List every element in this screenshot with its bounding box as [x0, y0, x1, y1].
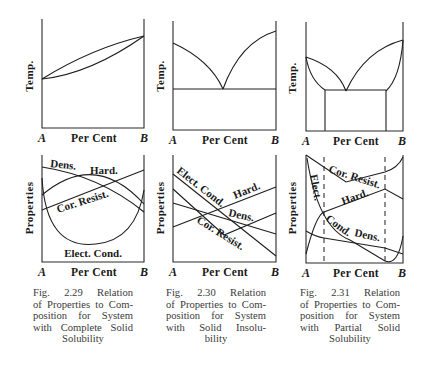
x-start-label: A — [37, 265, 46, 279]
caption-line: with Complete Solid — [33, 322, 133, 334]
fig-2-30-bottom-panel: Elect. Cond. Hard. Dens. Cor. Resist. Pr… — [154, 155, 279, 279]
figure-caption-2-31: Fig. 2.31 Relation of Properties to Com-… — [300, 287, 400, 345]
liquidus-curve-a — [306, 57, 346, 91]
caption-line: Solubility — [300, 333, 400, 345]
x-axis-label: Per Cent — [71, 266, 117, 278]
caption-line: bility — [166, 333, 266, 345]
curve-label-hardness: Hard. — [231, 179, 262, 201]
x-end-label: B — [139, 265, 148, 279]
solidus-curve-b — [386, 40, 403, 91]
figure-caption-2-30: Fig. 2.30 Relation of Properties to Com-… — [166, 287, 266, 345]
y-axis-label: Properties — [154, 181, 166, 234]
x-end-label: B — [397, 266, 406, 280]
x-axis-label: Per Cent — [202, 266, 248, 278]
solidus-curve-a — [306, 57, 325, 90]
caption-line: position for System — [300, 310, 400, 322]
caption-line: with Partial Solid — [300, 322, 400, 334]
caption-line: Fig. 2.29 Relation — [33, 287, 133, 299]
liquidus-curve-a — [173, 43, 223, 89]
x-start-label: A — [301, 134, 310, 148]
y-axis-label: Temp. — [286, 62, 298, 93]
caption-line: Fig. 2.31 Relation — [300, 287, 400, 299]
x-start-label: A — [168, 133, 177, 147]
figure-caption-2-29: Fig. 2.29 Relation of Properties to Com-… — [33, 287, 133, 345]
y-axis-label: Properties — [23, 181, 35, 234]
x-start-label: A — [168, 265, 177, 279]
y-axis-label: Temp. — [154, 60, 166, 91]
hardness-line — [173, 187, 276, 227]
caption-line: Solubility — [33, 333, 133, 345]
caption-line: of Properties to Com- — [33, 299, 133, 311]
fig-2-31-top-panel: Temp. A Per Cent B — [286, 22, 406, 148]
fig-2-29-top-panel: Temp. A Per Cent B — [23, 19, 148, 145]
caption-line: position for System — [33, 310, 133, 322]
x-axis-label: Per Cent — [71, 132, 117, 144]
curve-label-hardness: Hard. — [90, 164, 118, 176]
curve-label-conductivity: Cond. — [324, 212, 354, 239]
fig-2-31-bottom-panel: Cor. Resist. Elect. Hard. Cond. Dens. Pr… — [286, 155, 406, 280]
y-axis-label: Properties — [286, 181, 298, 234]
fig-2-30-top-panel: Temp. A Per Cent B — [154, 21, 279, 147]
caption-line: position for System — [166, 310, 266, 322]
x-end-label: B — [270, 133, 279, 147]
electrical-conductivity-line — [173, 174, 276, 256]
curve-label-corrosion-resistance: Cor. Resist. — [55, 187, 110, 215]
liquidus-curve-b — [223, 31, 276, 89]
curve-label-electrical-conductivity: Elect. Cond. — [64, 247, 122, 259]
x-axis-label: Per Cent — [333, 135, 379, 147]
caption-line: Fig. 2.30 Relation — [166, 287, 266, 299]
y-axis-label: Temp. — [23, 60, 35, 91]
axes-frame — [42, 19, 144, 128]
liquidus-curve-b — [346, 40, 403, 91]
caption-line: of Properties to Com- — [166, 299, 266, 311]
caption-line: of Properties to Com- — [300, 299, 400, 311]
fig-2-29-bottom-panel: Dens. Hard. Cor. Resist. Elect. Cond. Pr… — [23, 155, 148, 279]
x-end-label: B — [270, 265, 279, 279]
x-axis-label: Per Cent — [333, 267, 379, 279]
x-axis-label: Per Cent — [202, 134, 248, 146]
x-end-label: B — [139, 131, 148, 145]
curve-label-hardness: Hard. — [340, 186, 370, 207]
curve-label-electrical-conductivity: Elect. Cond. — [175, 164, 228, 209]
liquidus-curve — [42, 36, 144, 79]
x-end-label: B — [397, 134, 406, 148]
curve-label-electrical: Elect. — [308, 173, 324, 201]
curve-label-density: Dens. — [354, 226, 382, 243]
solidus-curve — [42, 36, 144, 79]
x-start-label: A — [301, 266, 310, 280]
caption-line: with Solid Insolu- — [166, 322, 266, 334]
x-start-label: A — [37, 131, 46, 145]
curve-label-corrosion-resistance: Cor. Resist. — [327, 162, 382, 190]
